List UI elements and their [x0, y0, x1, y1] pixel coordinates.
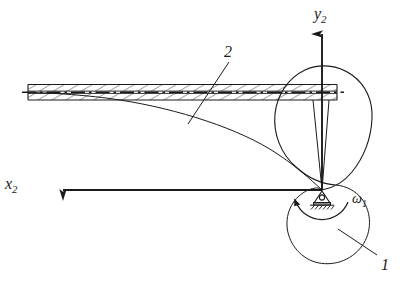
pivot-pin [319, 195, 324, 200]
axis-label-x2-sub: 2 [12, 183, 17, 195]
pivot-support [310, 191, 334, 210]
diagram-canvas [0, 0, 409, 283]
support-base [314, 203, 331, 205]
omega-symbol: ω [352, 191, 362, 206]
follower-hatch-upper [28, 85, 337, 92]
follower-bar [22, 85, 344, 101]
part-label-follower: 2 [224, 44, 232, 60]
part-label-cam: 1 [381, 257, 389, 273]
axis-label-y2: y2 [314, 6, 327, 25]
cam-flank-right [322, 100, 329, 190]
ground-hatching [311, 205, 334, 209]
coordinate-axes [63, 34, 322, 190]
omega-label-sub: 1 [362, 199, 367, 209]
support-triangle [314, 191, 330, 203]
axis-label-y2-sub: 2 [321, 13, 326, 25]
axis-label-x2: x2 [5, 176, 18, 195]
cam-mechanism-diagram: y2 x2 ω1 2 1 [0, 0, 409, 283]
angular-velocity-label-omega1: ω1 [352, 192, 367, 209]
cam-flank-left [313, 100, 322, 190]
